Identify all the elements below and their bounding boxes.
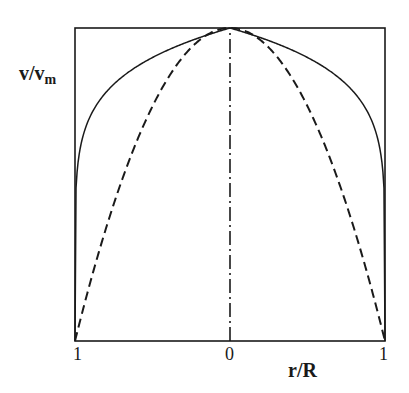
x-tick-left: 1: [73, 344, 82, 365]
x-tick-center: 0: [225, 344, 234, 365]
x-tick-right: 1: [379, 344, 388, 365]
x-axis-label: r/R: [288, 359, 317, 382]
y-axis-label: v/vm: [19, 62, 56, 88]
velocity-profile-chart: [0, 0, 409, 393]
